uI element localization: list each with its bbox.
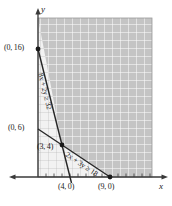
point-dot-9-0 bbox=[108, 175, 113, 180]
point-dot-3-4 bbox=[60, 143, 65, 148]
y-axis-arrow bbox=[35, 8, 40, 15]
x-axis-label: x bbox=[159, 181, 163, 191]
point-dot-0-16 bbox=[36, 47, 41, 52]
point-label-4-0: (4, 0) bbox=[58, 182, 74, 191]
plot-area bbox=[38, 18, 152, 177]
point-label-0-6: (0, 6) bbox=[8, 123, 24, 132]
x-axis-arrow-left bbox=[9, 174, 16, 179]
y-axis-label: y bbox=[41, 4, 45, 14]
point-label-3-4: (3, 4) bbox=[37, 142, 53, 151]
graph-svg bbox=[0, 0, 172, 206]
x-axis-arrow-right bbox=[162, 174, 169, 179]
inequality-graph-figure: (0, 16) (0, 6) (3, 4) (4, 0) (9, 0) y x … bbox=[0, 0, 172, 206]
point-label-9-0: (9, 0) bbox=[98, 182, 114, 191]
point-label-0-16: (0, 16) bbox=[4, 43, 24, 52]
